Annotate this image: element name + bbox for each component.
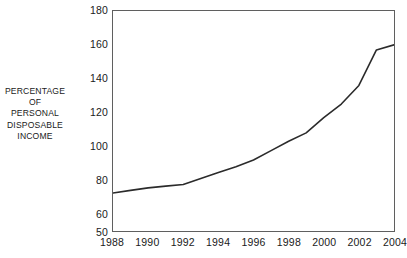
y-axis-title-line-5: INCOME (2, 131, 68, 142)
y-axis-tick-label: 80 (74, 175, 108, 186)
y-axis-tick-label: 100 (74, 141, 108, 152)
x-axis-tick-label: 2004 (383, 236, 407, 248)
y-axis-tick-labels: 506080100120140160180 (70, 0, 108, 258)
y-axis-title-line-2: OF (2, 97, 68, 108)
x-axis-tick-label: 2000 (312, 236, 336, 248)
y-axis-tick-label: 120 (74, 107, 108, 118)
data-line-series-1 (113, 45, 394, 193)
x-axis-tick-label: 1990 (135, 236, 159, 248)
x-axis-tick-label: 1996 (241, 236, 265, 248)
y-axis-tick-label: 160 (74, 39, 108, 50)
y-axis-title-line-3: PERSONAL (2, 108, 68, 119)
y-axis-tick-label: 60 (74, 209, 108, 220)
x-axis-tick-label: 1992 (171, 236, 195, 248)
x-axis-tick-label: 1994 (206, 236, 230, 248)
x-axis-tick-labels: 198819901992199419961998200020022004 (112, 236, 395, 252)
y-axis-title-line-4: DISPOSABLE (2, 120, 68, 131)
y-axis-tick-label: 180 (74, 5, 108, 16)
y-axis-title-line-1: PERCENTAGE (2, 86, 68, 97)
x-axis-tick-label: 2002 (348, 236, 372, 248)
y-axis-title: PERCENTAGE OF PERSONAL DISPOSABLE INCOME (2, 86, 68, 142)
y-axis-tick-label: 140 (74, 73, 108, 84)
data-line-svg (113, 11, 394, 231)
x-axis-tick-label: 1998 (277, 236, 301, 248)
x-axis-tick-label: 1988 (100, 236, 124, 248)
chart-figure: PERCENTAGE OF PERSONAL DISPOSABLE INCOME… (0, 0, 407, 258)
plot-area (112, 10, 395, 232)
